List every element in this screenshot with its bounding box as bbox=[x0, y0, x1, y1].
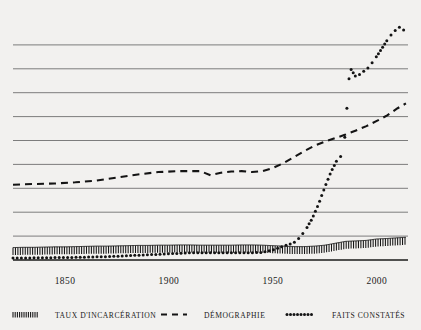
faits-constates-dot-95 bbox=[371, 61, 374, 64]
faits-constates-dot-41 bbox=[184, 252, 187, 255]
faits-constates-dot-28 bbox=[129, 254, 132, 257]
faits-constates-dot-47 bbox=[209, 251, 212, 254]
faits-constates-dot-62 bbox=[272, 248, 275, 251]
faits-constates-dot-97 bbox=[377, 52, 380, 55]
faits-constates-dot-13 bbox=[66, 256, 69, 259]
legend-item-2[interactable]: FAITS CONSTATÉS bbox=[286, 310, 406, 320]
faits-constates-dot-16 bbox=[79, 256, 82, 259]
faits-constates-dot-71 bbox=[308, 222, 311, 225]
faits-constates-dot-15 bbox=[75, 256, 78, 259]
faits-constates-dot-5 bbox=[33, 256, 36, 259]
faits-constates-dot-54 bbox=[238, 251, 241, 254]
gridlines bbox=[13, 45, 408, 236]
faits-constates-dot-57 bbox=[251, 251, 254, 254]
x-tick-label-1850: 1850 bbox=[55, 276, 76, 286]
faits-constates-dot-85 bbox=[339, 155, 342, 158]
faits-constates-dot-105 bbox=[402, 28, 405, 31]
faits-constates-dot-86 bbox=[343, 136, 346, 139]
faits-constates-dot-29 bbox=[133, 254, 136, 257]
faits-constates-dot-60 bbox=[264, 250, 267, 253]
faits-constates-dot-88 bbox=[348, 77, 351, 80]
faits-constates-dot-30 bbox=[138, 254, 141, 257]
faits-constates-dot-52 bbox=[230, 251, 233, 254]
faits-constates-dot-27 bbox=[125, 254, 128, 257]
faits-constates-dot-101 bbox=[385, 39, 388, 42]
faits-constates-dot-56 bbox=[247, 251, 250, 254]
demography-line bbox=[13, 103, 406, 184]
series-group bbox=[12, 26, 406, 260]
faits-constates-dot-50 bbox=[222, 251, 225, 254]
faits-constates-dot-12 bbox=[62, 256, 65, 259]
faits-constates-dot-51 bbox=[226, 251, 229, 254]
faits-constates-dot-2 bbox=[20, 257, 23, 260]
legend-label-2: FAITS CONSTATÉS bbox=[332, 310, 405, 320]
faits-constates-dot-8 bbox=[45, 256, 48, 259]
faits-constates-dot-42 bbox=[188, 251, 191, 254]
faits-constates-dot-55 bbox=[243, 251, 246, 254]
x-tick-label-2000: 2000 bbox=[366, 276, 387, 286]
faits-constates-dot-104 bbox=[398, 26, 401, 29]
dotted-swatch bbox=[286, 313, 314, 316]
legend-item-0[interactable]: TAUX D'INCARCÉRATION bbox=[13, 310, 156, 320]
x-tick-label-1950: 1950 bbox=[263, 276, 284, 286]
faits-constates-dot-23 bbox=[108, 255, 111, 258]
series-2 bbox=[12, 26, 406, 260]
faits-constates-dot-37 bbox=[167, 252, 170, 255]
faits-constates-dot-38 bbox=[171, 252, 174, 255]
faits-constates-dot-4 bbox=[28, 256, 31, 259]
legend-label-1: DÉMOGRAPHIE bbox=[204, 310, 265, 320]
faits-constates-dot-87 bbox=[345, 107, 348, 110]
faits-constates-dot-90 bbox=[352, 71, 355, 74]
faits-constates-dot-72 bbox=[310, 219, 313, 222]
faits-constates-dot-98 bbox=[379, 49, 382, 52]
faits-constates-dot-59 bbox=[259, 251, 262, 254]
faits-constates-dot-25 bbox=[117, 255, 120, 258]
faits-constates-dot-68 bbox=[297, 237, 300, 240]
faits-constates-dot-3 bbox=[24, 257, 27, 260]
faits-constates-dot-21 bbox=[100, 255, 103, 258]
faits-constates-dot-89 bbox=[350, 68, 353, 71]
x-tick-label-1900: 1900 bbox=[159, 276, 180, 286]
faits-constates-dot-77 bbox=[320, 194, 323, 197]
faits-constates-dot-99 bbox=[381, 46, 384, 49]
faits-constates-dot-63 bbox=[276, 247, 279, 250]
faits-constates-dot-58 bbox=[255, 251, 258, 254]
legend-item-1[interactable]: DÉMOGRAPHIE bbox=[161, 310, 265, 320]
faits-constates-dot-24 bbox=[112, 255, 115, 258]
faits-constates-dot-76 bbox=[318, 200, 321, 203]
hatched-swatch bbox=[13, 312, 37, 318]
faits-constates-dot-19 bbox=[91, 255, 94, 258]
faits-constates-dot-84 bbox=[335, 160, 338, 163]
faits-constates-dot-74 bbox=[314, 210, 317, 213]
faits-constates-dot-48 bbox=[213, 251, 216, 254]
faits-constates-dot-79 bbox=[324, 183, 327, 186]
faits-constates-dot-26 bbox=[121, 254, 124, 257]
chart-legend: TAUX D'INCARCÉRATIONDÉMOGRAPHIEFAITS CON… bbox=[13, 310, 405, 320]
faits-constates-dot-75 bbox=[316, 205, 319, 208]
faits-constates-dot-7 bbox=[41, 256, 44, 259]
faits-constates-dot-93 bbox=[362, 70, 365, 73]
faits-constates-dot-39 bbox=[175, 252, 178, 255]
faits-constates-dot-20 bbox=[96, 255, 99, 258]
series-1 bbox=[13, 103, 406, 184]
faits-constates-dot-67 bbox=[293, 241, 296, 244]
faits-constates-dot-22 bbox=[104, 255, 107, 258]
faits-constates-dot-66 bbox=[289, 242, 292, 245]
faits-constates-dot-14 bbox=[70, 256, 73, 259]
faits-constates-dot-32 bbox=[146, 253, 149, 256]
faits-constates-dot-61 bbox=[268, 249, 271, 252]
faits-constates-dot-70 bbox=[306, 226, 309, 229]
faits-constates-dot-69 bbox=[301, 232, 304, 235]
faits-constates-dot-34 bbox=[154, 253, 157, 256]
faits-constates-dot-53 bbox=[234, 251, 237, 254]
faits-constates-dot-73 bbox=[312, 215, 315, 218]
faits-constates-dot-1 bbox=[16, 257, 19, 260]
faits-constates-dot-83 bbox=[333, 164, 336, 167]
chart-container: 1850190019502000 TAUX D'INCARCÉRATIONDÉM… bbox=[0, 0, 421, 330]
faits-constates-dot-81 bbox=[329, 173, 332, 176]
faits-constates-dot-64 bbox=[280, 245, 283, 248]
faits-constates-dot-65 bbox=[285, 244, 288, 247]
faits-constates-dot-35 bbox=[159, 253, 162, 256]
faits-constates-dot-82 bbox=[331, 168, 334, 171]
faits-constates-dot-45 bbox=[201, 251, 204, 254]
